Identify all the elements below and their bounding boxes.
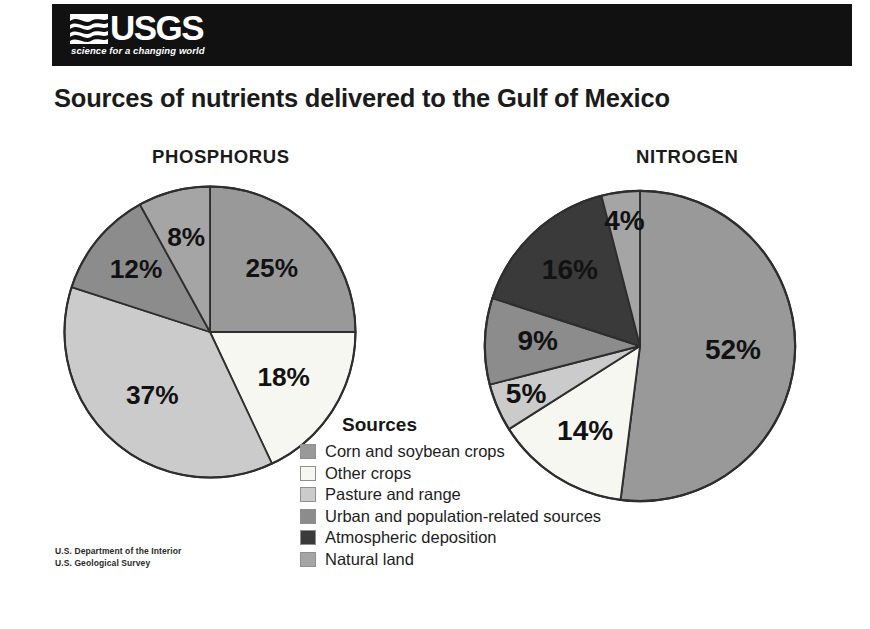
pie-slice-label: 16% [542, 254, 598, 285]
chart-heading-phosphorus: PHOSPHORUS [152, 146, 290, 168]
page-title: Sources of nutrients delivered to the Gu… [54, 84, 670, 113]
legend-swatch [300, 444, 316, 459]
usgs-wordmark: USGS [110, 9, 203, 47]
legend-swatch [300, 530, 316, 545]
legend-item-label: Natural land [325, 550, 414, 569]
pie-slice-label: 18% [257, 362, 310, 392]
legend-swatch [300, 509, 316, 524]
legend-item: Urban and population-related sources [300, 506, 601, 528]
usgs-header-band: USGS science for a changing world [52, 4, 852, 66]
legend-item-label: Corn and soybean crops [325, 442, 505, 461]
usgs-logo: USGS science for a changing world [70, 12, 270, 58]
legend-item: Atmospheric deposition [300, 527, 601, 549]
legend-swatch [300, 552, 316, 567]
legend-item: Natural land [300, 549, 601, 571]
legend-item-label: Atmospheric deposition [325, 528, 497, 547]
pie-slice-label: 9% [517, 325, 558, 356]
usgs-wave-icon [70, 14, 108, 44]
usgs-tagline: science for a changing world [71, 45, 205, 56]
pie-slice-label: 8% [167, 222, 205, 252]
slide-canvas: USGS science for a changing world Source… [0, 0, 870, 629]
pie-slice-label: 12% [110, 254, 163, 284]
legend-item-label: Pasture and range [325, 485, 461, 504]
attribution-line-2: U.S. Geological Survey [55, 558, 181, 570]
chart-heading-nitrogen: NITROGEN [636, 146, 738, 168]
legend: Sources Corn and soybean cropsOther crop… [300, 414, 601, 570]
agency-attribution: U.S. Department of the Interior U.S. Geo… [55, 546, 181, 569]
pie-slice-label: 52% [705, 334, 761, 365]
pie-slice-label: 5% [506, 378, 547, 409]
legend-item: Other crops [300, 463, 601, 485]
legend-swatch [300, 487, 316, 502]
pie-slice-label: 25% [245, 253, 298, 283]
attribution-line-1: U.S. Department of the Interior [55, 546, 181, 558]
pie-slice-label: 4% [604, 205, 645, 236]
legend-rows: Corn and soybean cropsOther cropsPasture… [300, 441, 601, 570]
legend-swatch [300, 466, 316, 481]
legend-title: Sources [342, 414, 601, 436]
legend-item: Corn and soybean crops [300, 441, 601, 463]
legend-item-label: Other crops [325, 464, 411, 483]
legend-item-label: Urban and population-related sources [325, 507, 601, 526]
pie-slice-label: 37% [126, 380, 179, 410]
legend-item: Pasture and range [300, 484, 601, 506]
